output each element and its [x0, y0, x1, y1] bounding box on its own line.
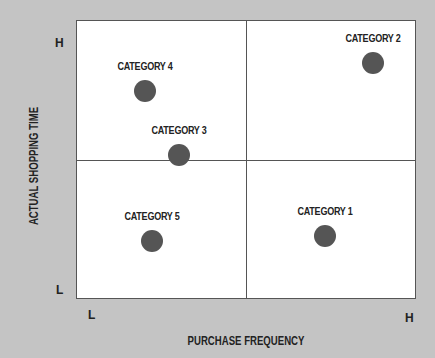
data-point-label: CATEGORY 5	[118, 210, 185, 222]
x-tick-low: L	[88, 308, 95, 322]
data-point	[134, 80, 156, 102]
data-point-label: CATEGORY 4	[111, 60, 178, 72]
data-point	[141, 230, 163, 252]
data-point-label: CATEGORY 1	[292, 205, 359, 217]
data-point-label: CATEGORY 3	[145, 124, 212, 136]
plot-area: CATEGORY 1CATEGORY 2CATEGORY 3CATEGORY 4…	[76, 20, 416, 299]
data-point	[314, 225, 336, 247]
data-point-label: CATEGORY 2	[339, 32, 406, 44]
data-point	[168, 144, 190, 166]
y-tick-high: H	[55, 36, 64, 50]
x-axis-title: PURCHASE FREQUENCY	[173, 334, 319, 348]
horizontal-divider	[77, 160, 415, 161]
y-axis-title: ACTUAL SHOPPING TIME	[27, 92, 41, 240]
y-tick-low: L	[56, 283, 63, 297]
data-point	[362, 52, 384, 74]
x-tick-high: H	[405, 311, 414, 325]
